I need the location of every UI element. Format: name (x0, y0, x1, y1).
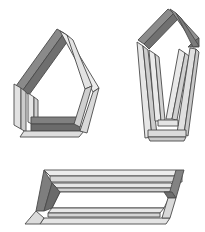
base-cross-beam-lower-edge (148, 137, 186, 141)
inner-top-rail-light-beam-top (52, 183, 176, 188)
base-cross-beam-upper (158, 120, 178, 126)
base-cross-beam-lower-face (148, 130, 186, 137)
inner-bottom-rail-light-beam (48, 208, 164, 217)
top-rail-light-beam-top (44, 170, 182, 176)
base-cross-beam-lower (148, 130, 186, 141)
top-rail-light-beam (44, 170, 182, 182)
bottom-dark-beam-top (31, 117, 80, 124)
inner-bottom-rail-light-beam-top (48, 208, 164, 213)
left-light-beam-outer-face (14, 84, 21, 129)
bottom-dark-beam-face (31, 124, 80, 131)
inner-top-rail-light-beam-face (57, 188, 176, 192)
inner-top-rail-light-beam (52, 183, 176, 192)
parallelogram-interior-opening (52, 192, 172, 208)
figure-parallelogram-frame (25, 170, 184, 224)
base-cross-beam-upper-face (158, 120, 178, 126)
bottom-dark-beam (31, 117, 80, 131)
left-light-beam-outer-side (21, 88, 26, 132)
top-rail-light-beam-face (50, 176, 182, 182)
figure-canvas (0, 0, 205, 232)
bottom-rail-light-beam-top (40, 218, 170, 224)
bottom-light-beam (20, 131, 84, 137)
inner-bottom-rail-light-beam-face (48, 213, 160, 217)
left-light-beam-outer (14, 84, 26, 132)
bottom-light-beam-face (20, 131, 84, 137)
